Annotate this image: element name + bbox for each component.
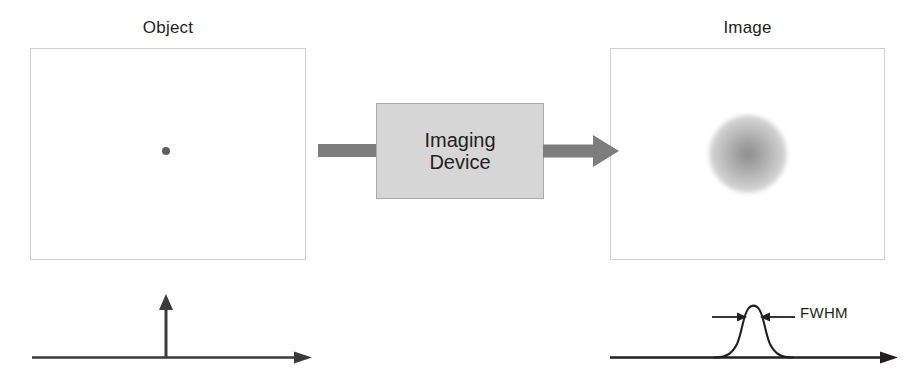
image-intensity-profile-plot (604, 286, 904, 374)
imaging-device-box: Imaging Device (376, 103, 544, 199)
point-object-dot (162, 147, 170, 155)
device-label-line2: Device (429, 151, 490, 173)
input-flow-arrow-icon (318, 144, 378, 157)
image-panel-title: Image (610, 18, 885, 38)
object-panel-title: Object (30, 18, 306, 38)
device-label-line1: Imaging (424, 129, 495, 151)
object-intensity-profile-plot (24, 286, 316, 374)
object-panel (30, 48, 306, 260)
psf-imaging-diagram: Object Image Imaging Device (0, 0, 914, 379)
image-panel (610, 48, 885, 260)
blurred-spot (709, 115, 787, 193)
fwhm-annotation-label: FWHM (800, 304, 848, 321)
output-flow-arrow-icon (543, 133, 621, 169)
